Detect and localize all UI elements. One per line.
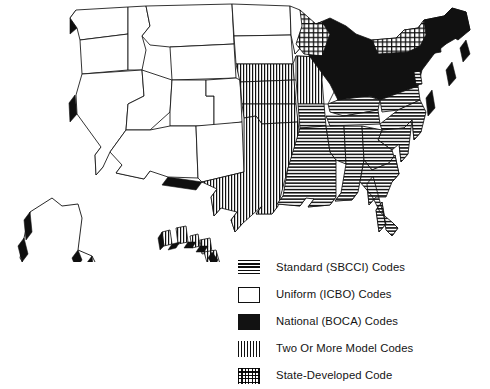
region-south-dakota (234, 35, 293, 64)
legend-label-uniform-icbo: Uniform (ICBO) Codes (276, 289, 392, 300)
legend-label-state-developed: State-Developed Code (276, 370, 392, 381)
us-map (0, 0, 490, 262)
region-group-national-boca (302, 8, 470, 104)
building-code-map-figure: Standard (SBCCI) Codes Uniform (ICBO) Co… (0, 0, 490, 389)
region-kansas (240, 80, 296, 104)
swatch-two-or-more-icon (238, 341, 260, 357)
region-arkansas (298, 104, 326, 128)
legend-label-two-or-more: Two Or More Model Codes (276, 343, 413, 354)
swatch-national-boca-icon (238, 314, 260, 330)
swatch-state-developed-icon (238, 368, 260, 384)
region-north-dakota (232, 4, 291, 36)
region-hawaii-inset (158, 226, 220, 262)
legend-item-standard-sbcci: Standard (SBCCI) Codes (238, 254, 488, 281)
region-montana (142, 4, 234, 47)
map-legend: Standard (SBCCI) Codes Uniform (ICBO) Co… (238, 254, 488, 389)
region-wisconsin (296, 10, 330, 56)
legend-item-state-developed: State-Developed Code (238, 362, 488, 389)
region-new-mexico (196, 122, 244, 182)
swatch-standard-sbcci-icon (238, 260, 260, 276)
legend-item-two-or-more: Two Or More Model Codes (238, 335, 488, 362)
region-wyoming (170, 44, 236, 80)
legend-item-uniform-icbo: Uniform (ICBO) Codes (238, 281, 488, 308)
region-arizona (110, 126, 198, 179)
legend-label-national-boca: National (BOCA) Codes (276, 316, 398, 327)
swatch-uniform-icbo-icon (238, 287, 260, 303)
region-alaska-inset (18, 198, 98, 262)
legend-item-national-boca: National (BOCA) Codes (238, 308, 488, 335)
region-oregon (80, 34, 128, 74)
legend-label-standard-sbcci: Standard (SBCCI) Codes (276, 262, 405, 273)
region-florida (360, 155, 399, 236)
region-nebraska (236, 64, 294, 82)
us-map-svg (0, 0, 490, 262)
